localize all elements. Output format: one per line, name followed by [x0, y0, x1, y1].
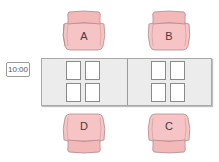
chair-c: C [145, 112, 193, 154]
time-badge: 10:00 [6, 62, 30, 77]
table-divider [127, 59, 128, 105]
paper [170, 83, 185, 102]
paper [66, 61, 81, 80]
chair-d: D [60, 112, 108, 154]
paper [66, 83, 81, 102]
chair-label-b: B [145, 30, 193, 42]
chair-label-a: A [60, 30, 108, 42]
paper [170, 61, 185, 80]
chair-a: A [60, 10, 108, 52]
paper [85, 83, 100, 102]
chair-top-icon [60, 112, 108, 154]
chair-b: B [145, 10, 193, 52]
paper [151, 61, 166, 80]
chair-top-icon [145, 112, 193, 154]
table [41, 58, 212, 106]
chair-label-c: C [145, 120, 193, 132]
paper [85, 61, 100, 80]
paper [151, 83, 166, 102]
chair-label-d: D [60, 120, 108, 132]
